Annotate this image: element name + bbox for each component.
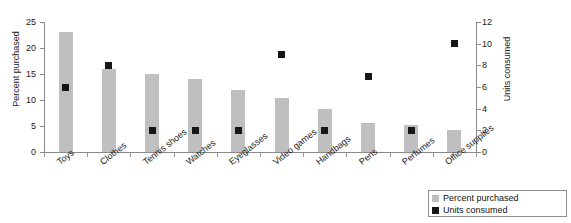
y-axis-right-tick-label: 0 — [482, 148, 504, 157]
y-axis-right-tick-label: 12 — [482, 18, 504, 27]
legend-swatch-icon-percent-purchased — [432, 195, 439, 202]
x-axis-tick — [44, 153, 45, 157]
y-axis-left-tick-label: 5 — [14, 122, 36, 131]
data-point-marker — [278, 51, 285, 58]
y-axis-left-tick — [40, 126, 44, 127]
x-axis-tick — [130, 153, 131, 157]
data-point-marker — [365, 73, 372, 80]
legend-item-percent-purchased: Percent purchased — [432, 193, 563, 204]
y-axis-right-tick-label: 10 — [482, 40, 504, 49]
x-axis-tick — [87, 153, 88, 157]
data-point-marker — [192, 127, 199, 134]
x-axis-tick — [217, 153, 218, 157]
x-axis-tick — [303, 153, 304, 157]
x-axis-tick — [476, 153, 477, 157]
bar — [231, 90, 245, 152]
y-axis-right-tick — [477, 22, 481, 23]
legend-swatch-icon-units-consumed — [432, 207, 439, 214]
y-axis-left-tick — [40, 74, 44, 75]
bar — [145, 74, 159, 152]
data-point-marker — [62, 84, 69, 91]
y-axis-right-tick — [477, 152, 481, 153]
y-axis-right-tick — [477, 65, 481, 66]
data-point-marker — [321, 127, 328, 134]
y-axis-left-tick-label: 20 — [14, 44, 36, 53]
bar — [102, 69, 116, 152]
data-point-marker — [408, 127, 415, 134]
chart-legend: Percent purchased Units consumed — [428, 190, 567, 217]
y-axis-right-tick-label: 6 — [482, 83, 504, 92]
y-axis-left-tick — [40, 48, 44, 49]
y-axis-left-tick-label: 25 — [14, 18, 36, 27]
y-axis-left-line — [44, 22, 45, 153]
y-axis-right-tick — [477, 109, 481, 110]
chart-container: Percent purchased Units consumed 0510152… — [0, 0, 571, 223]
x-axis-tick — [433, 153, 434, 157]
y-axis-left-tick — [40, 22, 44, 23]
y-axis-left-tick — [40, 100, 44, 101]
y-axis-left-title: Percent purchased — [11, 14, 21, 124]
y-axis-left-tick-label: 10 — [14, 96, 36, 105]
bar — [275, 98, 289, 152]
x-axis-tick — [174, 153, 175, 157]
legend-label-percent-purchased: Percent purchased — [443, 194, 519, 203]
y-axis-right-tick — [477, 44, 481, 45]
data-point-marker — [451, 40, 458, 47]
bar — [59, 32, 73, 152]
data-point-marker — [149, 127, 156, 134]
x-axis-tick — [346, 153, 347, 157]
bar — [188, 79, 202, 152]
legend-item-units-consumed: Units consumed — [432, 205, 563, 216]
x-axis-tick — [390, 153, 391, 157]
y-axis-right-tick — [477, 87, 481, 88]
legend-label-units-consumed: Units consumed — [443, 206, 508, 215]
y-axis-right-tick-label: 8 — [482, 61, 504, 70]
y-axis-left-tick-label: 0 — [14, 148, 36, 157]
x-axis-tick — [260, 153, 261, 157]
data-point-marker — [105, 62, 112, 69]
y-axis-left-tick-label: 15 — [14, 70, 36, 79]
data-point-marker — [235, 127, 242, 134]
y-axis-right-tick-label: 4 — [482, 105, 504, 114]
